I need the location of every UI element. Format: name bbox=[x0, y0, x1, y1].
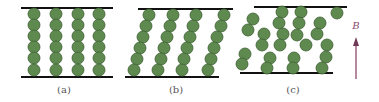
panel-c: (c) bbox=[236, 6, 347, 95]
magnetic-field-arrow: B bbox=[351, 20, 359, 79]
particle-chains bbox=[128, 9, 230, 76]
panel-b: (b) bbox=[125, 9, 233, 95]
panel-label-b: (b) bbox=[169, 84, 183, 95]
particle-chains bbox=[28, 8, 105, 76]
mr-fluid-chain-diagram: (a) (b) bbox=[0, 0, 379, 102]
arrow-up-icon bbox=[353, 37, 359, 46]
field-label: B bbox=[351, 20, 359, 31]
particle-cluster bbox=[236, 6, 343, 74]
panel-a: (a) bbox=[21, 8, 113, 95]
panel-label-a: (a) bbox=[57, 84, 71, 95]
panel-label-c: (c) bbox=[286, 84, 300, 95]
